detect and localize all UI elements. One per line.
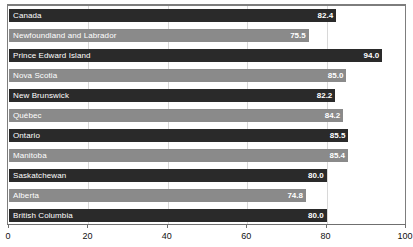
x-tick-label-40: 40 [162,231,172,242]
bar: Canada82.4 [9,9,336,22]
bar: Newfoundland and Labrador75.5 [9,29,309,42]
bar-row: Québec84.2 [9,109,343,122]
bar-category-label: British Columbia [13,211,73,220]
bar-category-label: Prince Edward Island [13,51,91,60]
bar-row: Canada82.4 [9,9,336,22]
bar-row: Manitoba85.4 [9,149,348,162]
bar: Québec84.2 [9,109,343,122]
bar-row: Prince Edward Island94.0 [9,49,382,62]
x-tick-label-20: 20 [82,231,92,242]
plot-area: Canada82.4Newfoundland and Labrador75.5P… [7,4,406,225]
bar: Alberta74.8 [9,189,306,202]
bar-row: Newfoundland and Labrador75.5 [9,29,309,42]
x-tick-20 [87,224,88,228]
bar-value-label: 94.0 [364,51,380,60]
x-tick-60 [246,224,247,228]
x-tick-label-100: 100 [397,231,412,242]
bar: Ontario85.5 [9,129,348,142]
bar-category-label: Canada [13,11,42,20]
bar: Nova Scotia85.0 [9,69,346,82]
bar: British Columbia80.0 [9,209,327,222]
bar-row: British Columbia80.0 [9,209,327,222]
bar-value-label: 82.4 [318,11,334,20]
bar-row: Ontario85.5 [9,129,348,142]
bar-value-label: 80.0 [308,171,324,180]
bar-value-label: 74.8 [287,191,303,200]
bar-value-label: 85.4 [329,151,345,160]
horizontal-bar-chart: Canada82.4Newfoundland and Labrador75.5P… [0,0,413,247]
bar-value-label: 84.2 [325,111,341,120]
bar-category-label: Alberta [13,191,39,200]
bar-value-label: 85.5 [330,131,346,140]
bar: Prince Edward Island94.0 [9,49,382,62]
bar-row: Saskatchewan80.0 [9,169,327,182]
bar-value-label: 80.0 [308,211,324,220]
x-tick-40 [167,224,168,228]
bar-category-label: Saskatchewan [13,171,66,180]
bar-row: Alberta74.8 [9,189,306,202]
bar: New Brunswick82.2 [9,89,335,102]
bar-category-label: New Brunswick [13,91,69,100]
bar: Manitoba85.4 [9,149,348,162]
bar-category-label: Newfoundland and Labrador [13,31,116,40]
x-tick-label-0: 0 [5,231,10,242]
bar-category-label: Nova Scotia [13,71,57,80]
bar: Saskatchewan80.0 [9,169,327,182]
bar-category-label: Ontario [13,131,40,140]
x-axis-line [7,224,406,225]
x-tick-80 [326,224,327,228]
bar-value-label: 85.0 [328,71,344,80]
bar-category-label: Québec [13,111,42,120]
x-tick-0 [8,224,9,228]
bar-row: Nova Scotia85.0 [9,69,346,82]
bar-category-label: Manitoba [13,151,47,160]
x-tick-label-60: 60 [241,231,251,242]
bar-value-label: 82.2 [317,91,333,100]
x-tick-100 [405,224,406,228]
bar-value-label: 75.5 [290,31,306,40]
x-tick-label-80: 80 [321,231,331,242]
bar-row: New Brunswick82.2 [9,89,335,102]
